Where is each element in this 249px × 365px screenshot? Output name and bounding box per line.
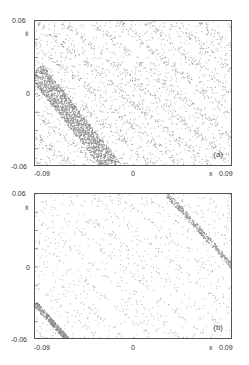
scatter-area-a <box>35 21 232 166</box>
y-tick-mid-b: 0 <box>26 264 30 271</box>
y-tick-top-b: 0.06 <box>12 190 26 197</box>
x-tick-mid-a: 0 <box>131 170 135 177</box>
panel-tag-b: (b) <box>213 323 223 332</box>
x-tick-mid-b: 0 <box>131 344 135 351</box>
x-axis-label-b: x <box>209 344 213 351</box>
x-axis-label-a: x <box>209 170 213 177</box>
x-tick-left-b: -0.09 <box>34 344 50 351</box>
x-tick-left-a: -0.09 <box>34 170 50 177</box>
x-tick-right-a: 0.09 <box>219 170 233 177</box>
y-axis-label-b: ẋ <box>25 204 29 211</box>
y-axis-label-a: ẋ <box>25 30 29 37</box>
panel-tag-a: (a) <box>213 150 223 159</box>
y-tick-bot-a: -0.06 <box>11 163 27 170</box>
scatter-area-b <box>35 194 232 339</box>
y-tick-top-a: 0.06 <box>12 17 26 24</box>
plot-panel-a: (a) <box>34 20 232 166</box>
y-tick-bot-b: -0.06 <box>11 336 27 343</box>
plot-panel-b: (b) <box>34 193 232 339</box>
x-tick-right-b: 0.09 <box>219 344 233 351</box>
y-tick-mid-a: 0 <box>26 90 30 97</box>
